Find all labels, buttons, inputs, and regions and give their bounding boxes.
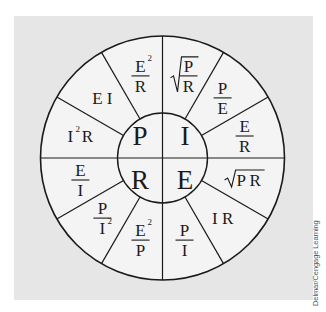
- denominator-exponent: 2: [107, 216, 112, 226]
- sector-formula-11: E I: [92, 89, 113, 108]
- exponent: 2: [75, 124, 80, 134]
- numerator: E: [239, 117, 249, 136]
- radicand: P R: [236, 171, 261, 190]
- denominator: R: [239, 137, 251, 156]
- numerator: E: [75, 161, 85, 180]
- formula-wheel-figure: P I R E PRPEERP RI RPIE2PPI2EII2RE IE2R …: [0, 0, 326, 312]
- denominator: R: [183, 77, 195, 96]
- denominator: I: [182, 241, 188, 260]
- center-label-r: R: [131, 165, 149, 195]
- formula-wheel-svg: P I R E PRPEERP RI RPIE2PPI2EII2RE IE2R: [0, 0, 326, 312]
- center-label-p: P: [132, 121, 147, 151]
- center-label-i: I: [181, 121, 190, 151]
- denominator: I: [100, 219, 106, 238]
- image-credit: Delmar/Cengage Learning: [311, 220, 320, 306]
- base: I: [68, 127, 74, 146]
- denominator: R: [135, 77, 147, 96]
- numerator: P: [218, 79, 227, 98]
- numerator: P: [180, 221, 189, 240]
- numerator: P: [184, 57, 193, 76]
- numerator-exponent: 2: [148, 53, 153, 63]
- denominator: I: [78, 181, 84, 200]
- numerator: E: [135, 57, 145, 76]
- numerator: P: [98, 199, 107, 218]
- denominator: P: [136, 241, 145, 260]
- center-label-e: E: [177, 165, 194, 195]
- formula-text: I R: [212, 209, 234, 228]
- numerator-exponent: 2: [148, 217, 153, 227]
- denominator: E: [217, 99, 227, 118]
- numerator: E: [135, 221, 145, 240]
- sector-formula-5: I R: [212, 209, 234, 228]
- formula-text: E I: [92, 89, 113, 108]
- factor: R: [82, 127, 94, 146]
